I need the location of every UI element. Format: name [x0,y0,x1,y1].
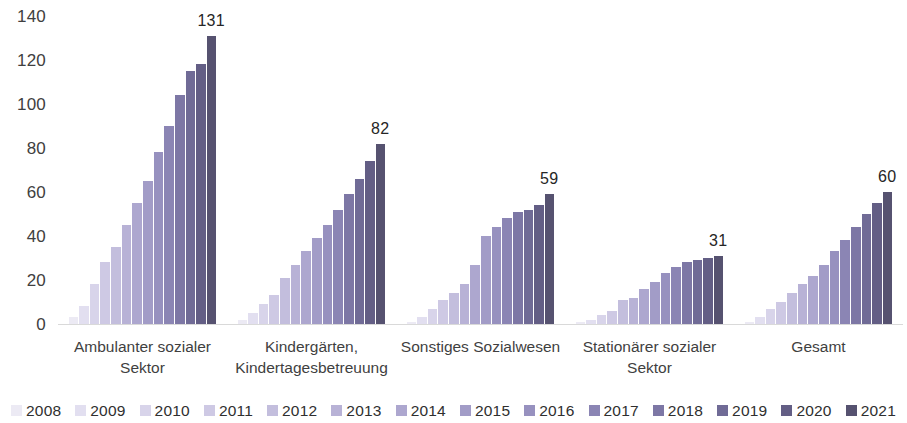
bar[interactable] [534,205,544,324]
bar-value-label: 60 [878,168,896,186]
chart-legend: 2008200920102011201220132014201520162017… [0,398,907,423]
bar[interactable] [428,309,438,324]
bar[interactable] [618,300,628,324]
category-label: Ambulanter sozialer Sektor [48,336,237,378]
bar[interactable] [840,240,850,324]
bar[interactable] [301,251,311,324]
bar[interactable] [90,284,100,324]
bar[interactable] [186,71,196,324]
legend-item[interactable]: 2021 [846,402,896,420]
bar[interactable] [196,64,206,324]
bar[interactable] [355,179,365,324]
legend-swatch-icon [653,405,664,416]
bar[interactable] [586,320,596,324]
bar-value-label: 31 [709,232,727,250]
bar[interactable] [323,225,333,324]
bar[interactable] [280,278,290,324]
legend-item[interactable]: 2010 [140,402,190,420]
legend-label: 2021 [861,402,896,420]
legend-item[interactable]: 2014 [396,402,446,420]
bar[interactable] [291,265,301,324]
bar[interactable] [69,317,79,324]
legend-label: 2009 [90,402,125,420]
bar[interactable] [787,293,797,324]
bar[interactable] [164,126,174,324]
bar[interactable] [333,210,343,324]
bar[interactable] [607,311,617,324]
bar[interactable] [248,313,258,324]
bar[interactable] [100,262,110,324]
bar[interactable] [639,289,649,324]
bar[interactable] [661,273,671,324]
legend-item[interactable]: 2008 [11,402,61,420]
bar[interactable] [481,236,491,324]
bar[interactable] [111,247,121,324]
bar-group-bars [407,16,555,324]
bar[interactable] [883,192,893,324]
bar[interactable] [851,227,861,324]
bar[interactable] [755,317,765,324]
bar[interactable] [269,295,279,324]
bar[interactable] [376,144,386,324]
bar[interactable] [259,304,269,324]
x-axis-baseline [58,324,903,325]
legend-item[interactable]: 2009 [75,402,125,420]
bar[interactable] [175,95,185,324]
legend-label: 2010 [155,402,190,420]
bar[interactable] [872,203,882,324]
legend-label: 2008 [26,402,61,420]
legend-swatch-icon [11,405,22,416]
legend-item[interactable]: 2013 [331,402,381,420]
bar[interactable] [407,322,417,324]
bar[interactable] [745,322,755,324]
bar[interactable] [449,293,459,324]
legend-item[interactable]: 2020 [781,402,831,420]
bar[interactable] [438,300,448,324]
bar[interactable] [502,218,512,324]
bar[interactable] [132,203,142,324]
bar[interactable] [460,284,470,324]
legend-item[interactable]: 2019 [717,402,767,420]
bar[interactable] [492,227,502,324]
legend-swatch-icon [846,405,857,416]
legend-item[interactable]: 2016 [524,402,574,420]
bar[interactable] [470,265,480,324]
bar[interactable] [682,262,692,324]
legend-label: 2019 [732,402,767,420]
bar[interactable] [671,267,681,324]
bar[interactable] [703,258,713,324]
bar[interactable] [207,36,217,324]
bar[interactable] [629,298,639,324]
bar-chart: 020406080100120140 13182593160 Ambulante… [0,0,907,423]
legend-item[interactable]: 2015 [460,402,510,420]
legend-item[interactable]: 2017 [589,402,639,420]
bar[interactable] [862,214,872,324]
bar[interactable] [576,322,586,324]
bar[interactable] [776,302,786,324]
bar[interactable] [597,315,607,324]
legend-item[interactable]: 2018 [653,402,703,420]
bar[interactable] [312,238,322,324]
bar[interactable] [830,251,840,324]
legend-item[interactable]: 2012 [267,402,317,420]
bar[interactable] [417,317,427,324]
bar[interactable] [122,225,132,324]
bar[interactable] [545,194,555,324]
bar[interactable] [143,181,153,324]
bar[interactable] [798,284,808,324]
bar[interactable] [819,265,829,324]
bar[interactable] [714,256,724,324]
bar[interactable] [238,320,248,324]
legend-label: 2011 [219,402,253,420]
bar[interactable] [154,152,164,324]
bar[interactable] [365,161,375,324]
bar[interactable] [79,306,89,324]
bar[interactable] [808,276,818,324]
bar[interactable] [513,212,523,324]
bar[interactable] [650,282,660,324]
legend-item[interactable]: 2011 [204,402,253,420]
bar[interactable] [524,210,534,324]
bar[interactable] [766,309,776,324]
bar[interactable] [344,194,354,324]
bar[interactable] [693,260,703,324]
